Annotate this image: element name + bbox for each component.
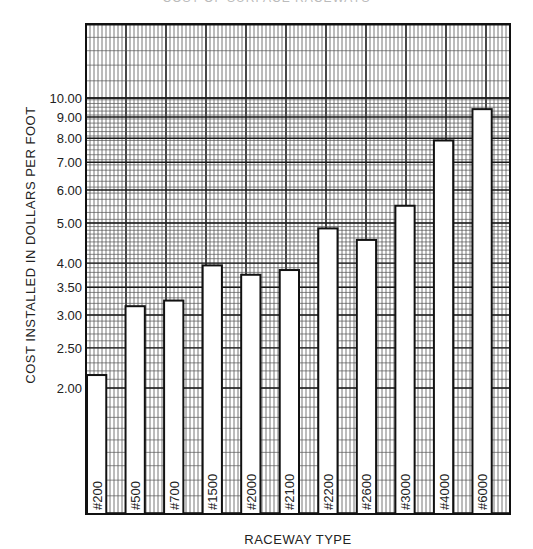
bar-label: #2000 bbox=[244, 474, 259, 510]
y-tick-label: 4.00 bbox=[57, 256, 82, 271]
y-tick-label: 5.00 bbox=[57, 216, 82, 231]
bar-200: #200 bbox=[87, 375, 106, 514]
y-tick-label: 8.00 bbox=[57, 131, 82, 146]
bar-label: #2600 bbox=[359, 474, 374, 510]
y-tick-label: 7.00 bbox=[57, 155, 82, 170]
y-tick-label: 6.00 bbox=[57, 183, 82, 198]
bar-rect bbox=[434, 140, 453, 514]
bar-rect bbox=[318, 228, 337, 514]
bar-2600: #2600 bbox=[357, 240, 376, 514]
bar-2200: #2200 bbox=[318, 228, 337, 514]
bar-label: #2200 bbox=[321, 474, 336, 510]
bar-label: #200 bbox=[90, 481, 105, 510]
bar-label: #4000 bbox=[437, 474, 452, 510]
bar-2000: #2000 bbox=[241, 275, 260, 514]
y-axis-ticks: 2.002.503.003.504.005.006.007.008.009.00… bbox=[49, 91, 82, 396]
bar-label: #1500 bbox=[205, 474, 220, 510]
bar-4000: #4000 bbox=[434, 140, 453, 514]
bar-500: #500 bbox=[126, 306, 145, 514]
bar-rect bbox=[472, 109, 491, 514]
y-axis-label: COST INSTALLED IN DOLLARS PER FOOT bbox=[23, 106, 38, 383]
bar-700: #700 bbox=[164, 301, 183, 514]
bar-chart: #200#500#700#1500#2000#2100#2200#2600#30… bbox=[0, 0, 533, 549]
bar-rect bbox=[395, 206, 414, 514]
y-tick-label: 3.50 bbox=[57, 280, 82, 295]
y-tick-label: 10.00 bbox=[49, 91, 82, 106]
bar-label: #6000 bbox=[475, 474, 490, 510]
bar-3000: #3000 bbox=[395, 206, 414, 514]
bar-2100: #2100 bbox=[280, 270, 299, 514]
bar-label: #3000 bbox=[398, 474, 413, 510]
bar-label: #500 bbox=[128, 481, 143, 510]
bar-label: #700 bbox=[167, 481, 182, 510]
bar-label: #2100 bbox=[282, 474, 297, 510]
y-tick-label: 9.00 bbox=[57, 110, 82, 125]
bar-1500: #1500 bbox=[203, 265, 222, 514]
bar-rect bbox=[357, 240, 376, 514]
y-tick-label: 2.00 bbox=[57, 381, 82, 396]
bar-6000: #6000 bbox=[472, 109, 491, 514]
y-tick-label: 2.50 bbox=[57, 341, 82, 356]
y-tick-label: 3.00 bbox=[57, 308, 82, 323]
x-axis-label: RACEWAY TYPE bbox=[86, 532, 510, 547]
